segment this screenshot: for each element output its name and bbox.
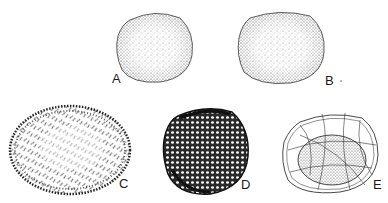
cropped-caption-fragment [0, 196, 388, 203]
label-d: D [241, 178, 250, 191]
label-e: E [373, 178, 382, 191]
figure-plate: A B C D E [0, 0, 388, 203]
label-c: C [119, 177, 128, 190]
specimen-d [163, 109, 248, 194]
label-b: B [325, 74, 334, 87]
label-a: A [112, 72, 121, 85]
specimen-e [283, 113, 378, 193]
specimen-c [10, 106, 130, 194]
figure-svg [0, 0, 388, 203]
specimen-a [117, 13, 193, 82]
